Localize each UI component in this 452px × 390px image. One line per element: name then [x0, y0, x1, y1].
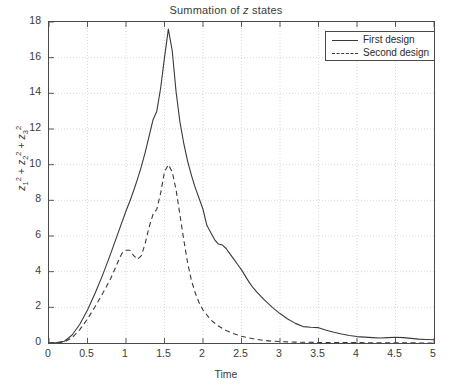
legend-item-second-design: Second design: [326, 48, 434, 60]
plot-area: [48, 21, 435, 344]
chart-legend: First design Second design: [325, 31, 435, 61]
y-tick-label: 18: [11, 14, 41, 26]
legend-label: Second design: [363, 47, 429, 58]
x-tick-label: 4.5: [378, 347, 412, 359]
legend-line-solid: [332, 40, 358, 43]
x-tick-label: 2.5: [224, 347, 258, 359]
y-tick-label: 10: [11, 157, 41, 169]
y-tick-label: 2: [11, 299, 41, 311]
x-tick-label: 3.5: [301, 347, 335, 359]
legend-item-first-design: First design: [326, 35, 434, 47]
y-tick-label: 4: [11, 264, 41, 276]
title-prefix: Summation of: [169, 4, 243, 16]
x-tick-label: 4: [339, 347, 373, 359]
x-tick-label: 2: [185, 347, 219, 359]
y-tick-label: 0: [11, 335, 41, 347]
x-axis-label: Time: [0, 368, 452, 380]
legend-label: First design: [363, 34, 415, 45]
x-tick-label: 5: [416, 347, 450, 359]
y-tick-label: 16: [11, 50, 41, 62]
legend-line-dashed: [332, 53, 358, 56]
x-tick-label: 0.5: [70, 347, 104, 359]
title-suffix: states: [249, 4, 283, 16]
x-tick-label: 1: [108, 347, 142, 359]
y-tick-label: 14: [11, 85, 41, 97]
chart-title: Summation of z states: [0, 4, 452, 16]
y-tick-label: 8: [11, 192, 41, 204]
x-tick-label: 1.5: [147, 347, 181, 359]
y-tick-label: 6: [11, 228, 41, 240]
chart-canvas: [49, 22, 434, 343]
chart-figure: Summation of z states z12 + z22 + z32 Ti…: [0, 0, 452, 390]
y-tick-label: 12: [11, 121, 41, 133]
x-tick-label: 0: [31, 347, 65, 359]
x-tick-label: 3: [262, 347, 296, 359]
